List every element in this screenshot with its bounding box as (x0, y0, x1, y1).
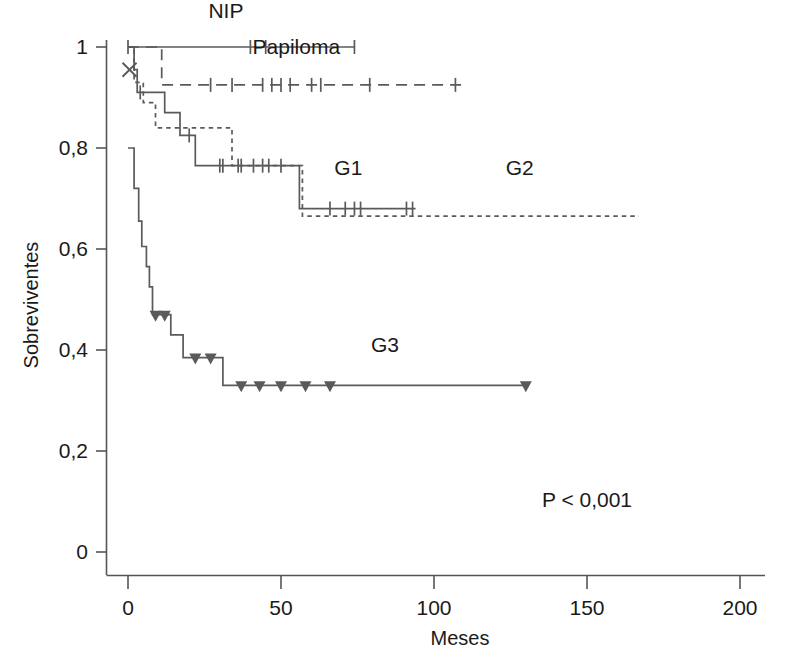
censor-triangle-marker (254, 381, 266, 392)
p-value-annotation: P < 0,001 (542, 488, 632, 511)
series-label-g3: G3 (371, 333, 399, 356)
x-tick-label: 150 (569, 596, 604, 619)
x-tick-label: 0 (122, 596, 134, 619)
x-axis-ticks (128, 575, 740, 589)
x-tick-label: 50 (269, 596, 292, 619)
censor-triangle-marker (275, 381, 287, 392)
x-axis-title: Meses (431, 627, 490, 649)
series-label-nip: NIP (208, 0, 243, 22)
y-tick-label: 0,8 (59, 136, 88, 159)
y-tick-label: 0,4 (59, 338, 89, 361)
kaplan-meier-plot: 00,20,40,60,81 050100150200 NIPPapilomaG… (0, 0, 789, 662)
survival-curve-g1 (128, 47, 416, 209)
censor-triangle-marker (189, 354, 201, 365)
censor-triangle-marker (520, 381, 532, 392)
y-axis-ticks (96, 47, 107, 552)
y-tick-label: 0 (76, 540, 88, 563)
series-label-group: NIPPapilomaG1G2G3 (208, 0, 533, 356)
survival-chart-figure: 00,20,40,60,81 050100150200 NIPPapilomaG… (0, 0, 789, 662)
censor-triangle-marker (299, 381, 311, 392)
y-tick-label: 0,2 (59, 439, 88, 462)
y-axis-tick-labels: 00,20,40,60,81 (59, 35, 89, 563)
y-tick-label: 0,6 (59, 237, 88, 260)
survival-curve-g2 (128, 47, 639, 216)
x-tick-label: 100 (416, 596, 451, 619)
y-tick-label: 1 (76, 35, 88, 58)
survival-curve-g3 (128, 148, 526, 385)
censor-triangle-marker (205, 354, 217, 365)
series-label-papiloma: Papiloma (253, 35, 341, 58)
series-label-g1: G1 (334, 156, 362, 179)
x-tick-label: 200 (722, 596, 757, 619)
censor-triangle-marker (324, 381, 336, 392)
censor-triangle-marker (159, 311, 171, 322)
series-label-g2: G2 (506, 156, 534, 179)
x-axis-tick-labels: 050100150200 (122, 596, 757, 619)
censor-triangle-marker (235, 381, 247, 392)
y-axis-title: Sobreviventes (20, 242, 42, 369)
